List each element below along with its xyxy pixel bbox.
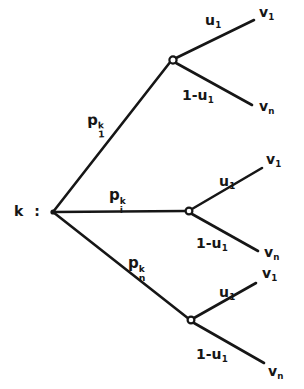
one-minus-u1-base-bn: 1-u	[196, 346, 222, 362]
leaf-label-v1-branch-1: v1	[259, 5, 274, 19]
one-minus-u1-base-bi: 1-u	[196, 235, 222, 251]
root-label-k: k :	[14, 204, 43, 218]
probability-tree-diagram: k : pk1 pki pkn u1 v1 1-u1 vn u1 v1 1-u1…	[0, 0, 304, 389]
prob-pi-sub: i	[120, 205, 123, 214]
u1-sub-bi: 1	[229, 181, 235, 191]
prob-pi-base: p	[109, 186, 120, 204]
internal-node-1	[169, 56, 176, 63]
v1-base-b1: v	[259, 4, 268, 20]
leaf-label-v1-branch-n: v1	[262, 266, 277, 280]
leaf-label-vn-branch-1: vn	[259, 99, 274, 113]
tree-edges-svg	[0, 0, 304, 389]
v1-base-bi: v	[266, 151, 275, 167]
vn-sub-bi: n	[273, 252, 279, 262]
weight-label-1-minus-u1-branch-i: 1-u1	[196, 236, 228, 250]
one-minus-u1-sub-bi: 1	[222, 243, 228, 253]
one-minus-u1-sub-bn: 1	[222, 354, 228, 364]
one-minus-u1-base-b1: 1-u	[182, 87, 208, 103]
vn-base-bi: v	[264, 244, 273, 260]
prob-p1-base: p	[87, 111, 98, 129]
u1-base-bn: u	[219, 284, 229, 300]
vn-base-b1: v	[259, 98, 268, 114]
v1-sub-bn: 1	[271, 273, 277, 283]
u1-base-b1: u	[205, 12, 215, 28]
leaf-label-vn-branch-i: vn	[264, 245, 279, 259]
weight-label-1-minus-u1-branch-n: 1-u1	[196, 347, 228, 361]
prob-pn-base: p	[128, 254, 139, 272]
leaf-label-vn-branch-n: vn	[268, 364, 283, 378]
internal-node-i	[186, 208, 193, 215]
weight-label-u1-branch-i: u1	[219, 174, 235, 188]
weight-label-u1-branch-1: u1	[205, 13, 221, 27]
vn-sub-bn: n	[277, 371, 283, 381]
weight-label-u1-branch-n: u1	[219, 285, 235, 299]
u1-sub-bn: 1	[229, 292, 235, 302]
prob-label-pnk: pkn	[128, 256, 139, 271]
vn-sub-b1: n	[268, 106, 274, 116]
v1-sub-bi: 1	[275, 159, 281, 169]
weight-label-1-minus-u1-branch-1: 1-u1	[182, 88, 214, 102]
u1-sub-b1: 1	[215, 20, 221, 30]
prob-label-pik: pki	[109, 188, 120, 203]
one-minus-u1-sub-b1: 1	[208, 95, 214, 105]
edge-root-to-node-n	[53, 212, 189, 319]
v1-base-bn: v	[262, 265, 271, 281]
u1-base-bi: u	[219, 173, 229, 189]
internal-node-n	[188, 317, 195, 324]
root-vertex-dot	[50, 209, 55, 214]
v1-sub-b1: 1	[268, 12, 274, 22]
prob-pn-sub: n	[139, 273, 146, 282]
prob-label-p1k: pk1	[87, 113, 98, 128]
prob-p1-sub: 1	[98, 129, 105, 139]
vn-base-bn: v	[268, 363, 277, 379]
leaf-label-v1-branch-i: v1	[266, 152, 281, 166]
